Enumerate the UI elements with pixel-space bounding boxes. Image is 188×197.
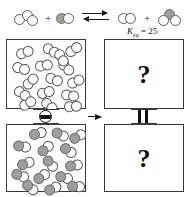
molecule xyxy=(64,159,84,174)
equilibrium-arrow-icon xyxy=(82,10,112,24)
atom-white xyxy=(170,15,181,26)
keq-value: 25 xyxy=(148,26,157,36)
top-left-vessel xyxy=(6,39,86,109)
molecule xyxy=(67,127,89,146)
bottom-right-question-mark: ? xyxy=(105,146,183,172)
atom-white xyxy=(158,15,169,26)
chemical-equation: + + xyxy=(0,4,188,30)
molecule xyxy=(64,100,83,114)
reactant-triatomic-white-cluster xyxy=(14,9,40,29)
figure-canvas: + + Keq = 25 xyxy=(0,0,188,197)
plus-sign-products: + xyxy=(144,13,150,24)
product-white-diatomic xyxy=(118,12,140,26)
top-right-vessel: ? xyxy=(104,39,184,109)
molecule xyxy=(67,180,86,194)
top-right-question-mark: ? xyxy=(105,62,183,88)
process-arrow-icon xyxy=(88,116,101,117)
molecule xyxy=(12,140,32,155)
closed-valve-icon xyxy=(39,110,52,123)
plus-sign-reactants: + xyxy=(45,13,51,24)
molecule xyxy=(34,59,54,74)
keq-subscript: eq xyxy=(133,32,139,38)
atom-white xyxy=(70,100,82,112)
product-cluster-with-gray xyxy=(157,9,183,29)
molecule xyxy=(28,126,48,142)
atom-white xyxy=(125,13,136,24)
molecule xyxy=(14,44,35,61)
bottom-left-vessel xyxy=(6,124,86,192)
equilibrium-constant-label: Keq = 25 xyxy=(127,26,157,38)
atom-white xyxy=(63,13,74,24)
open-valve-icon xyxy=(137,110,150,123)
reactant-gray-white-diatomic xyxy=(56,12,78,26)
atom-white xyxy=(27,15,38,26)
keq-relation: = xyxy=(141,26,146,36)
bottom-right-vessel: ? xyxy=(104,124,184,192)
